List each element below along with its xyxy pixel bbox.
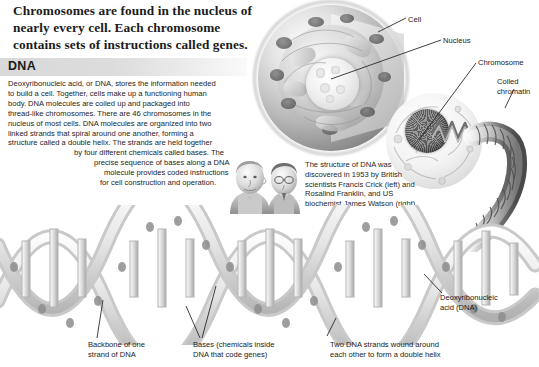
dna-line: molecule provides coded instructions bbox=[8, 168, 248, 178]
label-backbone: Backbone of one strand of DNA bbox=[88, 340, 176, 359]
dna-line: precise sequence of bases along a DNA bbox=[8, 158, 248, 168]
dna-line: linked strands that spiral around one an… bbox=[8, 129, 248, 139]
label-two-strands: Two DNA strands wound around each other … bbox=[330, 340, 465, 359]
label-coiled-chromatin: Coiled chromatin bbox=[497, 77, 539, 96]
dna-body-text: Deoxyribonucleic acid, or DNA, stores th… bbox=[8, 79, 248, 188]
label-cell: Cell bbox=[408, 15, 421, 25]
dna-line: thread-like chromosomes. There are 46 ch… bbox=[8, 109, 248, 119]
diagram-page: Chromosomes are found in the nucleus of … bbox=[0, 0, 539, 367]
label-chromosome: Chromosome bbox=[478, 58, 524, 68]
dna-line: structure called a double helix. The str… bbox=[8, 138, 248, 148]
label-nucleus: Nucleus bbox=[443, 36, 470, 46]
scientists-caption: The structure of DNA was discovered in 1… bbox=[305, 160, 423, 209]
dna-heading: DNA bbox=[8, 59, 36, 73]
dna-heading-band bbox=[0, 58, 247, 76]
endoplasmic-reticulum-lines bbox=[258, 5, 404, 151]
cell-illustration bbox=[258, 5, 404, 151]
label-deoxyribonucleic-acid: Deoxyribonucleic acid (DNA) bbox=[440, 293, 510, 312]
dna-line: Deoxyribonucleic acid, or DNA, stores th… bbox=[8, 79, 248, 89]
dna-line: nucleus of most cells. DNA molecules are… bbox=[8, 119, 248, 129]
dna-line: body. DNA molecules are coiled up and pa… bbox=[8, 99, 248, 109]
dna-line: to build a cell. Together, cells make up… bbox=[8, 89, 248, 99]
double-helix-illustration bbox=[0, 205, 539, 345]
dna-line: by four different chemicals called bases… bbox=[8, 148, 248, 158]
page-title: Chromosomes are found in the nucleus of … bbox=[13, 2, 265, 54]
label-bases: Bases (chemicals inside DNA that code ge… bbox=[193, 340, 301, 359]
dna-line: for cell construction and operation. bbox=[8, 178, 248, 188]
